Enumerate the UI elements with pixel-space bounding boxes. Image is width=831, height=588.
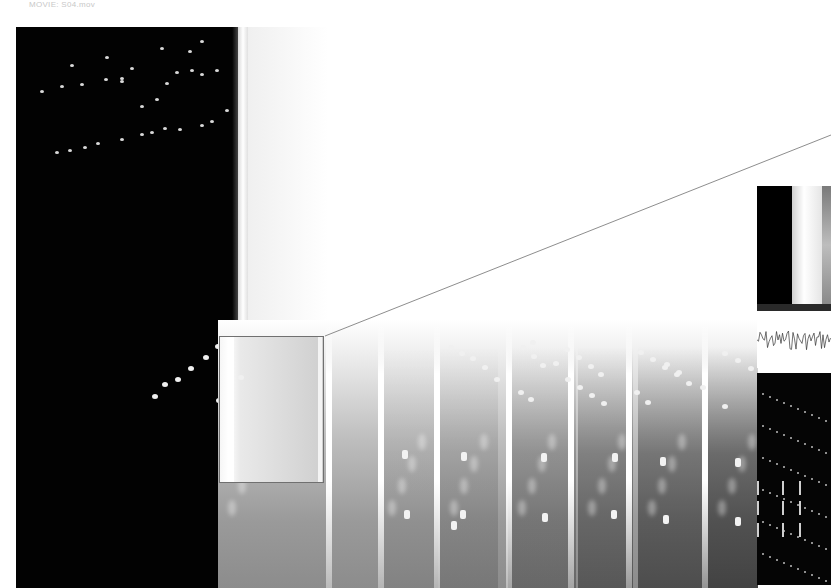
track-dot xyxy=(783,434,785,436)
track-bar xyxy=(799,481,801,495)
track-dot xyxy=(776,527,778,529)
frame-divider xyxy=(568,320,574,588)
track-dot xyxy=(790,469,792,471)
track-dot xyxy=(811,574,813,576)
track-dot xyxy=(811,414,813,416)
track-bar xyxy=(782,523,784,537)
particle-dot xyxy=(162,382,168,387)
particle-dot xyxy=(200,73,204,76)
particle-dot xyxy=(60,85,64,88)
motion-blob xyxy=(598,478,606,494)
track-bar xyxy=(757,501,759,515)
frame-divider xyxy=(506,320,512,588)
track-dot xyxy=(769,428,771,430)
particle-dot xyxy=(588,364,594,369)
motion-blob xyxy=(718,500,726,516)
motion-blob xyxy=(618,434,626,450)
particle-dot xyxy=(165,82,169,85)
particle-dot xyxy=(676,370,682,375)
connector-line xyxy=(325,135,831,336)
thumbnail-gray-band xyxy=(822,186,831,304)
track-dot xyxy=(762,553,764,555)
bright-marker xyxy=(542,513,548,522)
particle-dot xyxy=(686,381,692,386)
bright-divider xyxy=(702,320,708,588)
particle-dot xyxy=(40,90,44,93)
track-dot xyxy=(818,481,820,483)
particle-dot xyxy=(735,358,741,363)
magnified-region[interactable] xyxy=(219,336,324,483)
particle-dot xyxy=(150,131,154,134)
particle-dot xyxy=(163,127,167,130)
track-dot xyxy=(804,539,806,541)
film-frame[interactable] xyxy=(708,320,758,588)
particle-dot xyxy=(601,401,607,406)
motion-blob xyxy=(408,456,416,472)
bright-divider xyxy=(626,320,632,588)
bright-marker xyxy=(460,510,466,519)
track-dot xyxy=(811,478,813,480)
film-frame[interactable] xyxy=(440,320,498,588)
track-dot xyxy=(825,484,827,486)
particle-dot xyxy=(700,385,706,390)
film-frame[interactable] xyxy=(378,320,438,588)
bright-marker xyxy=(451,521,457,530)
particle-dot xyxy=(470,356,476,361)
track-dot xyxy=(783,466,785,468)
track-dot xyxy=(776,431,778,433)
film-frame[interactable] xyxy=(578,320,633,588)
track-dot xyxy=(818,545,820,547)
particle-dot xyxy=(553,361,559,366)
track-dot xyxy=(811,542,813,544)
particle-dot xyxy=(225,109,229,112)
particle-dot xyxy=(528,397,534,402)
motion-blob xyxy=(228,500,236,516)
track-dot xyxy=(776,559,778,561)
zoom-bright-bar xyxy=(318,337,322,482)
bright-divider xyxy=(326,320,332,588)
zoom-bright-bar xyxy=(228,337,234,482)
particle-dot xyxy=(120,80,124,83)
track-dot xyxy=(790,533,792,535)
motion-blob xyxy=(460,478,468,494)
frame-shade xyxy=(378,320,438,588)
particle-dot xyxy=(80,83,84,86)
bright-divider xyxy=(568,320,574,588)
particle-dot xyxy=(564,347,570,352)
bright-marker xyxy=(612,453,618,462)
main-video-frame[interactable] xyxy=(16,27,238,588)
particle-dot xyxy=(178,128,182,131)
motion-blob xyxy=(388,500,396,516)
particle-dot xyxy=(459,351,465,356)
particle-dot xyxy=(188,366,194,371)
motion-blob xyxy=(728,478,736,494)
particle-dot xyxy=(70,64,74,67)
frame-shade xyxy=(638,320,708,588)
particle-dot xyxy=(634,390,640,395)
track-dot xyxy=(776,399,778,401)
thumbnail-base xyxy=(757,304,831,311)
motion-blob xyxy=(668,456,676,472)
particle-dot xyxy=(664,362,670,367)
waveform-panel[interactable] xyxy=(757,318,831,368)
track-dot xyxy=(811,446,813,448)
track-dot xyxy=(790,405,792,407)
particle-track-panel[interactable] xyxy=(757,373,831,585)
bright-marker xyxy=(461,452,467,461)
motion-blob xyxy=(528,478,536,494)
track-dot xyxy=(769,396,771,398)
particle-dot xyxy=(152,394,158,399)
frame-thumbnail-panel[interactable] xyxy=(757,186,831,311)
particle-dot xyxy=(190,69,194,72)
particle-dot xyxy=(83,146,87,149)
particle-dot xyxy=(104,78,108,81)
movie-caption: MOVIE: S04.mov xyxy=(29,0,95,9)
track-dot xyxy=(776,495,778,497)
particle-dot xyxy=(482,365,488,370)
particle-dot xyxy=(188,50,192,53)
bright-divider xyxy=(434,320,440,588)
track-dot xyxy=(825,420,827,422)
film-frame[interactable] xyxy=(638,320,708,588)
track-dot xyxy=(818,577,820,579)
motion-blob xyxy=(588,500,596,516)
